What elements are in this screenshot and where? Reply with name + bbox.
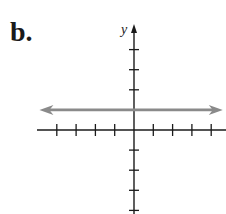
coordinate-plane: y: [0, 0, 226, 214]
y-axis-label: y: [119, 22, 128, 37]
axes: y: [37, 22, 226, 214]
y-axis-arrow-icon: [131, 24, 137, 33]
series-line: [39, 105, 222, 115]
